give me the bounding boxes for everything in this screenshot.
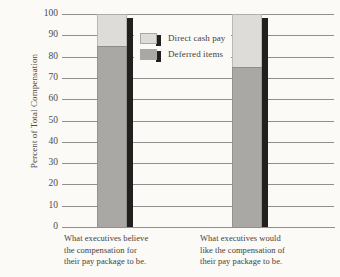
y-axis-tick-label: 40 — [49, 137, 59, 147]
y-axis-tick-label: 10 — [49, 201, 59, 211]
bar-segment-deferred-items[interactable] — [232, 67, 262, 227]
bar-group[interactable] — [97, 14, 133, 227]
legend-swatch-icon — [140, 49, 161, 60]
stacked-bar[interactable] — [97, 14, 127, 227]
bar-segment-deferred-items[interactable] — [97, 46, 127, 227]
swatch-fill — [140, 33, 157, 44]
y-axis-title: Percent of Total Compensation — [29, 31, 39, 191]
y-axis-tick-label: 100 — [44, 9, 58, 19]
y-axis-tick-label: 0 — [53, 222, 58, 232]
category-label-line: like the compensation of — [200, 245, 285, 257]
legend-swatch-icon — [140, 33, 161, 44]
y-axis-tick-label: 70 — [49, 73, 59, 83]
chart-legend: Direct cash pay Deferred items — [134, 27, 231, 65]
category-label-line: the compensation for — [64, 245, 148, 257]
bar-shadow — [127, 18, 133, 227]
legend-item-direct-cash-pay: Direct cash pay — [134, 30, 231, 46]
category-label-line: What executives believe — [64, 233, 148, 245]
bar-segment-direct-cash-pay[interactable] — [232, 14, 262, 67]
gridline — [62, 227, 335, 228]
legend-item-deferred-items: Deferred items — [134, 46, 231, 62]
legend-label: Direct cash pay — [168, 33, 225, 43]
y-axis-tick-label: 80 — [49, 52, 59, 62]
bar-segment-direct-cash-pay[interactable] — [97, 14, 127, 46]
y-axis-tick-label: 60 — [49, 94, 59, 104]
legend-label: Deferred items — [168, 49, 223, 59]
y-axis-tick-label: 50 — [49, 116, 59, 126]
bar-group[interactable] — [232, 14, 268, 227]
x-axis-category-label-0: What executives believe the compensation… — [64, 233, 148, 268]
category-label-line: their pay package to be. — [200, 256, 285, 268]
y-axis-tick-label: 20 — [49, 180, 59, 190]
x-axis-category-label-1: What executives would like the compensat… — [200, 233, 285, 268]
stacked-bar[interactable] — [232, 14, 262, 227]
bar-shadow — [262, 18, 268, 227]
category-label-line: What executives would — [200, 233, 285, 245]
swatch-fill — [140, 49, 157, 60]
y-axis-tick-label: 90 — [49, 31, 59, 41]
y-axis-tick-label: 30 — [49, 158, 59, 168]
category-label-line: their pay package to be. — [64, 256, 148, 268]
bar-chart-figure: Percent of Total Compensation 0102030405… — [0, 0, 340, 277]
